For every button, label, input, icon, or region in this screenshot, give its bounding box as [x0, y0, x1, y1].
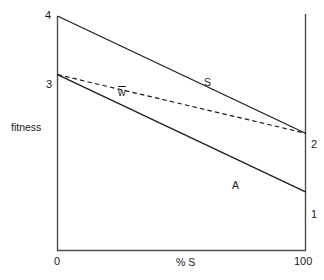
- series-line-a: [58, 75, 306, 192]
- series-line-s: [58, 16, 306, 133]
- series-label-wbar: w: [118, 86, 126, 98]
- y-tick-label-3: 3: [46, 79, 52, 90]
- plot-canvas: [0, 0, 324, 280]
- series-label-a: A: [232, 180, 239, 191]
- series-label-s: S: [204, 77, 211, 88]
- x-axis-title: % S: [176, 257, 195, 268]
- x-tick-label-100: 100: [294, 256, 312, 267]
- y-tick-label-1: 1: [311, 209, 317, 220]
- x-tick-label-0: 0: [54, 256, 60, 267]
- y-axis-title: fitness: [11, 122, 41, 133]
- y-tick-label-2: 2: [311, 139, 317, 150]
- wbar-glyph: w: [118, 86, 126, 98]
- fitness-chart-figure: fitness 4 3 2 1 0 100 % S S A w: [0, 0, 324, 280]
- y-tick-label-4: 4: [45, 10, 51, 21]
- series-line-wbar: [58, 75, 306, 134]
